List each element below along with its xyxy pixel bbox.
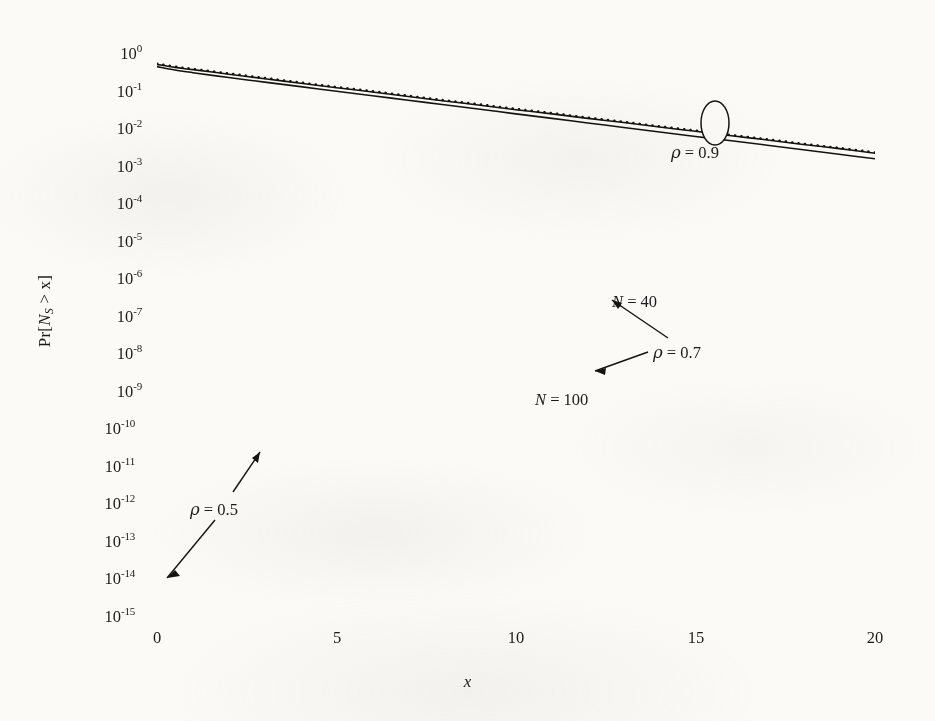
rho-09-ellipse-marker xyxy=(701,101,729,145)
arrow-rho05-to-exact xyxy=(167,520,215,578)
figure-container: Pr[NS > x] x 100 10-1 10-2 10-3 10-4 10-… xyxy=(0,0,935,721)
curve-2 xyxy=(157,64,875,153)
arrow-rho07-to-n40 xyxy=(612,300,668,338)
plot-area xyxy=(0,0,935,721)
curve-1 xyxy=(157,67,875,159)
arrow-rho07-to-n100 xyxy=(595,352,648,371)
annotation-arrows xyxy=(167,300,668,578)
curve-group xyxy=(157,64,875,159)
